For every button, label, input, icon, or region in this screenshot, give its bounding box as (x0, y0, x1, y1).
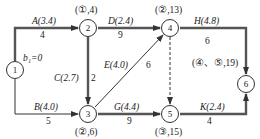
activity-h-label: H(4.8) (194, 17, 219, 27)
node-2-label: 2 (86, 23, 91, 33)
activity-b-label: B(4.0) (34, 103, 58, 113)
activity-k-label: K(2.4) (200, 103, 225, 113)
activity-d-label: D(2.4) (108, 17, 133, 27)
activity-k-duration: 4 (207, 117, 212, 127)
activity-b-duration: 5 (46, 117, 51, 127)
node-3-annotation: (②,6) (75, 128, 97, 138)
node-1: 1 (6, 61, 24, 79)
activity-c-label: C(2.7) (54, 74, 79, 84)
activity-g-label: G(4.4) (114, 103, 139, 113)
node-6-label: 6 (244, 79, 249, 89)
activity-e-duration: 6 (146, 61, 151, 71)
activity-d-duration: 9 (118, 31, 123, 41)
arrow-e (95, 35, 163, 107)
activity-h-duration: 6 (205, 37, 210, 47)
node-1-label: 1 (13, 65, 18, 75)
node-6: 6 (237, 75, 255, 93)
node-5-annotation: (③,15) (155, 128, 182, 138)
node-2-annotation: (①,4) (75, 6, 97, 16)
node-4-annotation: (②,13) (155, 6, 182, 16)
node-1-annotation: b₁=0 (23, 54, 42, 64)
activity-g-duration: 9 (127, 117, 132, 127)
network-diagram: 1 2 3 4 5 6 b₁=0 (①,4) (②,6) (②,13) (③,1… (0, 0, 260, 139)
node-6-annotation: (④、⑤,19) (192, 59, 238, 69)
node-5: 5 (161, 105, 179, 123)
node-5-label: 5 (168, 109, 173, 119)
node-3: 3 (79, 105, 97, 123)
node-4-label: 4 (168, 23, 173, 33)
activity-e-label: E(4.0) (104, 61, 128, 71)
node-3-label: 3 (86, 109, 91, 119)
activity-a-duration: 4 (40, 31, 45, 41)
node-4: 4 (161, 19, 179, 37)
node-2: 2 (79, 19, 97, 37)
activity-c-duration: 2 (91, 74, 96, 84)
activity-a-label: A(3.4) (32, 17, 56, 27)
